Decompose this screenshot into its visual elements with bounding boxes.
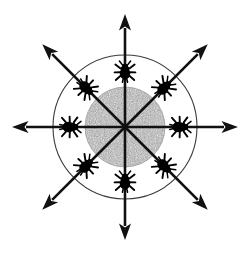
- figure-root: Radial dispersal diagram with eight beet…: [0, 0, 250, 253]
- radial-dispersal-diagram: [0, 0, 250, 253]
- radial-arrows: [12, 14, 238, 240]
